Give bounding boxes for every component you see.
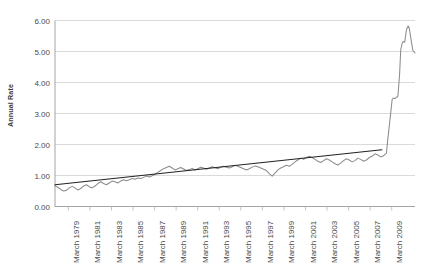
chart-container: Annual Rate 0.001.002.003.004.005.006.00…: [0, 0, 428, 268]
x-axis-tick-label: March 1985: [136, 220, 145, 262]
x-axis-tick-label: March 1981: [93, 220, 102, 262]
x-axis-tick-label: March 2009: [395, 220, 404, 262]
x-axis-tick-label: March 1991: [201, 220, 210, 262]
x-axis-tick-label: March 1979: [72, 220, 81, 262]
x-axis-tick-label: March 1989: [179, 220, 188, 262]
x-axis-tick-label: March 1997: [266, 220, 275, 262]
x-axis-tick-label: March 2007: [373, 220, 382, 262]
x-axis-tick-labels: March 1979March 1981March 1983March 1985…: [0, 0, 428, 268]
x-axis-tick-label: March 2005: [352, 220, 361, 262]
x-axis-tick-label: March 2003: [330, 220, 339, 262]
x-axis-tick-label: March 1993: [222, 220, 231, 262]
x-axis-tick-label: March 2001: [309, 220, 318, 262]
x-axis-tick-label: March 1999: [287, 220, 296, 262]
x-axis-tick-label: March 1995: [244, 220, 253, 262]
x-axis-tick-label: March 1987: [158, 220, 167, 262]
x-axis-tick-label: March 1983: [115, 220, 124, 262]
